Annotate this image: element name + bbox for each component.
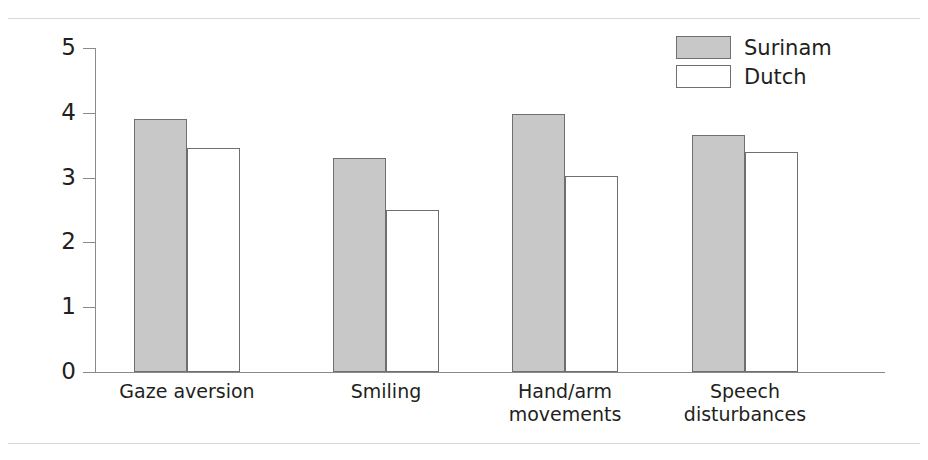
category-label-line: Hand/arm <box>465 380 665 403</box>
x-axis-category-label: Gaze aversion <box>87 380 287 403</box>
category-label-line: Smiling <box>286 380 486 403</box>
legend-swatch-icon-surinam <box>676 36 731 59</box>
bar-dutch[interactable] <box>745 152 798 372</box>
bar-chart-figure: 012345 Gaze aversionSmilingHand/armmovem… <box>0 18 928 443</box>
category-label-line: Speech <box>645 380 845 403</box>
legend-swatch-icon-dutch <box>676 65 731 88</box>
x-axis-category-label: Speechdisturbances <box>645 380 845 426</box>
legend-item-surinam[interactable]: Surinam <box>676 33 832 62</box>
bar-surinam[interactable] <box>512 114 565 372</box>
legend-item-dutch[interactable]: Dutch <box>676 62 832 91</box>
bar-surinam[interactable] <box>333 158 386 372</box>
category-label-line: movements <box>465 403 665 426</box>
page-rule-bottom <box>8 443 920 444</box>
bar-surinam[interactable] <box>134 119 187 372</box>
bar-dutch[interactable] <box>187 148 240 372</box>
chart-legend: Surinam Dutch <box>676 33 832 91</box>
legend-label-surinam: Surinam <box>744 36 832 60</box>
x-axis-category-label: Smiling <box>286 380 486 403</box>
bar-surinam[interactable] <box>692 135 745 372</box>
bar-dutch[interactable] <box>386 210 439 372</box>
x-axis-category-label: Hand/armmovements <box>465 380 665 426</box>
legend-label-dutch: Dutch <box>744 65 807 89</box>
bar-dutch[interactable] <box>565 176 618 372</box>
category-label-line: Gaze aversion <box>87 380 287 403</box>
category-label-line: disturbances <box>645 403 845 426</box>
